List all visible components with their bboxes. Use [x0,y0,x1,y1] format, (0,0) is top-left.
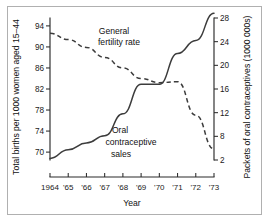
right-axis: 281216202428 Packets of oral contracepti… [214,14,252,178]
annotation-oral-contraceptive-sales: Oral contraceptive sales [105,125,156,159]
right-tick-label: 12 [220,109,230,118]
left-tick-label: 86 [35,64,45,73]
right-tick-label: 8 [220,132,225,141]
fertility-annotation-line1: General [99,26,130,36]
x-axis-title: Year [123,198,141,208]
right-tick-label: 20 [220,61,230,70]
sales-annotation-line3: sales [111,149,131,159]
x-tick-label: '73 [209,183,220,192]
series-general-fertility-rate-line [50,33,214,149]
left-tick-label: 74 [35,127,45,136]
x-tick-label: '72 [191,183,202,192]
left-tick-label: 70 [35,148,45,157]
x-tick-label: '68 [118,183,129,192]
x-tick-label: 1964 [41,183,59,192]
chart-figure: 70747882869094 Total births per 1000 wom… [0,0,269,223]
right-axis-ticks: 281216202428 [214,14,230,165]
right-axis-title: Packets of oral contraceptives (1000 000… [242,15,252,178]
right-tick-label: 24 [220,38,230,47]
x-axis-ticks: 1964'65'66'67'68'69'70'71'72'73 [41,173,220,192]
x-tick-label: '69 [136,183,147,192]
left-axis-ticks: 70747882869094 [35,22,50,157]
x-tick-label: '65 [63,183,74,192]
right-tick-label: 2 [220,156,225,165]
x-tick-label: '71 [172,183,183,192]
x-axis: 1964'65'66'67'68'69'70'71'72'73 Year [41,173,220,208]
x-tick-label: '66 [81,183,92,192]
right-tick-label: 28 [220,14,230,23]
right-tick-label: 16 [220,85,230,94]
x-tick-label: '67 [99,183,110,192]
chart-canvas: 70747882869094 Total births per 1000 wom… [0,0,269,223]
fertility-annotation-line2: fertility rate [98,37,140,47]
annotation-general-fertility-rate: General fertility rate [98,26,140,47]
x-tick-label: '70 [154,183,165,192]
left-tick-label: 78 [35,106,45,115]
left-tick-label: 90 [35,43,45,52]
sales-annotation-line1: Oral [112,125,128,135]
sales-annotation-line2: contraceptive [105,137,156,147]
left-tick-label: 82 [35,85,45,94]
left-tick-label: 94 [35,22,45,31]
left-axis-title: Total births per 1000 women aged 15–44 [11,19,21,175]
left-axis: 70747882869094 Total births per 1000 wom… [11,18,50,175]
